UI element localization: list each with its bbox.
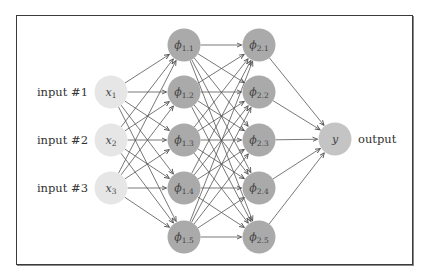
edge-x1-p11 bbox=[125, 54, 169, 83]
edge-x1-p13 bbox=[125, 101, 170, 130]
nodes: x1x2x3ϕ1.1ϕ1.2ϕ1.3ϕ1.4ϕ1.5ϕ2.1ϕ2.2ϕ2.3ϕ2… bbox=[95, 29, 352, 254]
edge-p24-y bbox=[273, 148, 320, 179]
edge-x3-p13 bbox=[125, 150, 170, 179]
input-label-x3: input #3 bbox=[37, 181, 88, 195]
edge-p22-y bbox=[273, 101, 320, 130]
input-label-x2: input #2 bbox=[37, 133, 88, 147]
input-label-x1: input #1 bbox=[37, 85, 88, 99]
edge-x2-p14 bbox=[125, 149, 170, 178]
node-label-y: y bbox=[331, 133, 339, 146]
edge-p15-p24 bbox=[198, 198, 245, 228]
edge-p14-p21 bbox=[192, 60, 251, 173]
edge-p23-y bbox=[275, 139, 317, 140]
edge-p12-p21 bbox=[198, 54, 244, 83]
edge-p12-p23 bbox=[198, 101, 244, 131]
edge-p11-p22 bbox=[198, 54, 244, 83]
output-label-y: output bbox=[358, 132, 397, 146]
edge-p14-p25 bbox=[198, 197, 245, 227]
edge-x3-p15 bbox=[125, 197, 170, 227]
edge-x2-p12 bbox=[125, 102, 170, 131]
edge-p14-p23 bbox=[198, 149, 244, 179]
edge-x3-p11 bbox=[119, 61, 177, 174]
edges bbox=[118, 45, 324, 237]
edge-p15-p22 bbox=[192, 108, 251, 223]
edge-p13-p22 bbox=[198, 101, 244, 131]
neural-network-diagram: x1x2x3ϕ1.1ϕ1.2ϕ1.3ϕ1.4ϕ1.5ϕ2.1ϕ2.2ϕ2.3ϕ2… bbox=[0, 0, 427, 278]
edge-p13-p24 bbox=[198, 149, 244, 179]
